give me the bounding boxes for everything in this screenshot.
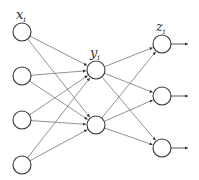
- connection-edge: [29, 76, 87, 115]
- connection-edge: [28, 78, 90, 158]
- output-node-2: [153, 87, 171, 105]
- connection-edge: [30, 36, 87, 65]
- connection-edge: [102, 77, 156, 140]
- connection-edge: [104, 73, 152, 92]
- output-node-1: [153, 35, 171, 53]
- input-node-4: [13, 156, 31, 174]
- connection-edge: [30, 81, 88, 120]
- layer-labels: xiyizi: [16, 7, 166, 62]
- input-node-1: [13, 23, 31, 41]
- hidden-node-1: [87, 61, 105, 79]
- connection-edge: [31, 71, 86, 75]
- input-node-2: [13, 67, 31, 85]
- output-layer-label: zi: [155, 19, 166, 36]
- output-node-3: [153, 139, 171, 157]
- neural-network-diagram: xiyizi: [0, 0, 199, 180]
- connection-edge: [30, 130, 87, 161]
- connection-edge: [31, 121, 86, 125]
- connection-edge: [104, 100, 153, 121]
- hidden-node-2: [87, 116, 105, 134]
- hidden-layer-label: yi: [89, 45, 100, 62]
- input-node-3: [13, 111, 31, 129]
- connection-edge: [104, 128, 152, 145]
- input-layer-label: xi: [16, 7, 26, 24]
